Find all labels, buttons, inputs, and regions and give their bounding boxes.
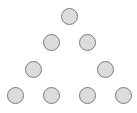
circle-node — [25, 61, 42, 78]
circle-node — [97, 61, 114, 78]
circle-node — [79, 34, 96, 51]
circle-node — [43, 87, 60, 104]
circle-node — [61, 8, 78, 25]
circle-node — [7, 87, 24, 104]
circle-node — [115, 87, 132, 104]
circle-node — [43, 34, 60, 51]
circle-node — [79, 87, 96, 104]
